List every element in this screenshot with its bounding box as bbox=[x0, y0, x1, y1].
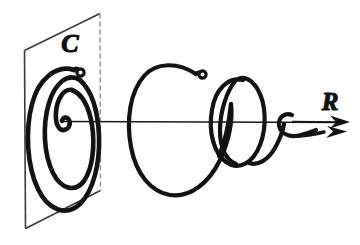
plane-edge-left bbox=[25, 51, 26, 229]
unwinding-helix bbox=[129, 65, 284, 195]
spiral-helix-diagram: C R bbox=[0, 0, 360, 245]
plane-edge-right bbox=[100, 14, 101, 191]
vector-arrows bbox=[279, 114, 350, 138]
label-r: R bbox=[321, 88, 339, 115]
helix-terminal-bead bbox=[199, 71, 206, 78]
flat-spiral-terminal-bead bbox=[77, 69, 84, 76]
flat-spiral-inner-turn bbox=[56, 90, 72, 130]
flat-spiral-middle-turn bbox=[45, 77, 94, 188]
label-c: C bbox=[61, 29, 79, 58]
arrow-head-lower bbox=[326, 126, 347, 138]
helix-loop-one bbox=[129, 65, 232, 195]
figure-root: C R bbox=[0, 0, 360, 245]
flat-spiral bbox=[28, 69, 99, 211]
